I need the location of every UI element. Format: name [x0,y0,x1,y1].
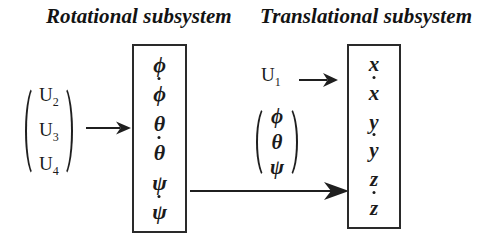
state-psi: ψ [152,172,167,194]
state-phi: ϕ [153,54,166,76]
rotational-subsystem-title: Rotational subsystem [46,4,232,29]
attitude-coupling-vector: ϕ θ ψ [256,103,298,181]
arrow-right-long-icon-coupling [190,181,350,201]
left-parenthesis-icon [256,103,267,181]
arrow-right-icon-translational-input [299,71,339,89]
state-psi-dot: ψ [152,201,167,223]
state-y: y [369,112,378,133]
translational-subsystem-title: Translational subsystem [260,4,472,29]
state-y-dot: y [369,140,378,161]
state-phi-dot: ϕ [153,83,166,105]
rotational-input-vector: U2 U3 U4 [25,82,73,180]
state-theta-dot: θ [154,142,165,164]
state-theta: θ [154,113,165,135]
state-x-dot: x [369,83,380,104]
translational-input-u1: U1 [261,64,281,90]
translational-subsystem-box: x x y y z z [347,44,401,229]
left-parenthesis-icon [25,82,36,180]
rotational-subsystem-box: ϕ ϕ θ θ ψ ψ [132,44,187,233]
right-parenthesis-icon [62,82,73,180]
right-parenthesis-icon [287,103,298,181]
arrow-right-icon-rotational-input [86,119,132,137]
state-x: x [369,54,380,75]
state-z: z [370,169,378,190]
state-z-dot: z [370,198,378,219]
